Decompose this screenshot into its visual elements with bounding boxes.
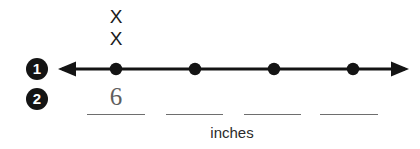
number-line-point[interactable]	[110, 63, 122, 75]
worksheet-canvas: 1 2 X X 6 inches	[0, 0, 420, 149]
number-line-point[interactable]	[189, 63, 201, 75]
plot-x-mark[interactable]: X	[106, 29, 126, 49]
number-line-point[interactable]	[268, 63, 280, 75]
answer-blank[interactable]	[166, 94, 223, 115]
step-badge-2: 2	[26, 88, 48, 110]
unit-label-text: inches	[210, 124, 253, 141]
unit-label: inches	[0, 124, 420, 141]
plot-x-mark[interactable]: X	[106, 7, 126, 27]
right-arrow-icon	[391, 62, 409, 77]
answer-value[interactable]: 6	[96, 84, 136, 110]
left-arrow-icon	[58, 62, 76, 77]
answer-blank[interactable]	[320, 94, 378, 115]
answer-blank[interactable]	[244, 94, 301, 115]
number-line[interactable]	[0, 55, 420, 85]
number-line-point[interactable]	[347, 63, 359, 75]
